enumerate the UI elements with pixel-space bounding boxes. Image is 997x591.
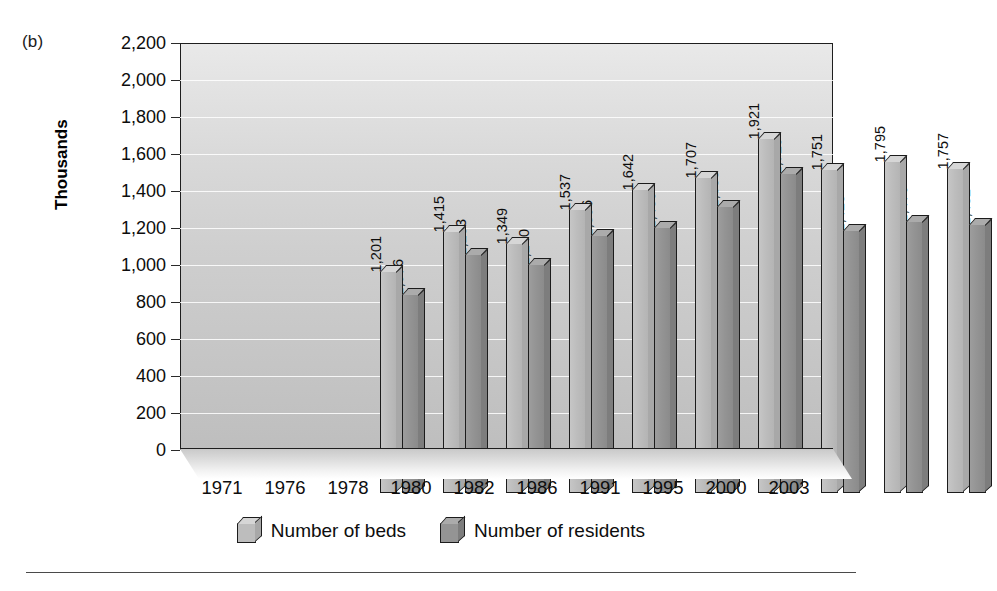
y-axis-tick-label: 2,000 bbox=[121, 71, 166, 89]
chart-legend: Number of bedsNumber of residents bbox=[0, 518, 882, 543]
legend-swatch-beds bbox=[237, 523, 256, 543]
panel-label: (b) bbox=[22, 32, 43, 52]
y-axis-tick-label: 600 bbox=[136, 330, 166, 348]
y-axis-tick-mark bbox=[171, 413, 180, 414]
y-axis-tick-mark bbox=[171, 450, 180, 451]
bar-side-face bbox=[796, 168, 803, 492]
bar-value-label: 1,751 bbox=[810, 134, 825, 171]
bar-value-label: 1,201 bbox=[369, 236, 384, 273]
y-axis-ticks: 2,2002,0001,8001,6001,4001,2001,00080060… bbox=[84, 43, 180, 450]
x-axis-label-2003: 2003 bbox=[768, 477, 809, 499]
legend-swatch-residents bbox=[440, 523, 459, 543]
legend-swatch-side-face bbox=[458, 516, 465, 542]
bars-layer: 1,2011,0761,4151,2931,3491,2401,5371,396… bbox=[360, 86, 997, 493]
y-axis-tick-mark bbox=[171, 228, 180, 229]
gridline bbox=[180, 80, 833, 81]
x-axis-labels: 1971197619781980198219861991199520002003 bbox=[180, 477, 852, 503]
x-axis-label-1982: 1982 bbox=[453, 477, 494, 499]
y-axis-tick-label: 200 bbox=[136, 404, 166, 422]
bar-beds-2000[interactable] bbox=[884, 161, 901, 493]
y-axis-tick-mark bbox=[171, 43, 180, 44]
y-axis-tick-mark bbox=[171, 339, 180, 340]
y-axis-tick-mark bbox=[171, 265, 180, 266]
bottom-divider bbox=[26, 572, 856, 573]
bar-value-label: 1,642 bbox=[621, 154, 636, 191]
y-axis-tick-label: 1,800 bbox=[121, 108, 166, 126]
x-axis-label-1991: 1991 bbox=[579, 477, 620, 499]
x-axis-label-1978: 1978 bbox=[327, 477, 368, 499]
plot-area: 1,2011,0761,4151,2931,3491,2401,5371,396… bbox=[180, 43, 833, 450]
y-axis-tick-mark bbox=[171, 117, 180, 118]
legend-entry-beds[interactable]: Number of beds bbox=[237, 518, 406, 543]
legend-label: Number of residents bbox=[474, 520, 645, 542]
y-axis-tick-label: 0 bbox=[156, 441, 166, 459]
y-axis-tick-mark bbox=[171, 154, 180, 155]
y-axis-tick-label: 400 bbox=[136, 367, 166, 385]
y-axis-title: Thousands bbox=[52, 182, 72, 210]
bar-value-label: 1,921 bbox=[747, 102, 762, 139]
y-axis-tick-label: 800 bbox=[136, 293, 166, 311]
bar-value-label: 1,349 bbox=[495, 208, 510, 245]
x-axis-label-2000: 2000 bbox=[705, 477, 746, 499]
x-axis-label-1986: 1986 bbox=[516, 477, 557, 499]
y-axis-tick-label: 1,400 bbox=[121, 182, 166, 200]
y-axis-tick-label: 1,600 bbox=[121, 145, 166, 163]
bar-side-face bbox=[922, 216, 929, 492]
y-axis-tick-label: 1,000 bbox=[121, 256, 166, 274]
bar-value-label: 1,795 bbox=[873, 126, 888, 163]
bar-beds-1991[interactable] bbox=[758, 138, 775, 493]
y-axis-tick-mark bbox=[171, 302, 180, 303]
bar-value-label: 1,757 bbox=[936, 133, 951, 170]
y-axis-tick-mark bbox=[171, 191, 180, 192]
x-axis-label-1976: 1976 bbox=[264, 477, 305, 499]
bar-value-label: 1,537 bbox=[558, 173, 573, 210]
y-axis-tick-label: 1,200 bbox=[121, 219, 166, 237]
legend-label: Number of beds bbox=[271, 520, 406, 542]
y-axis-tick-mark bbox=[171, 376, 180, 377]
bar-beds-1986[interactable] bbox=[695, 177, 712, 493]
bar-residents-2003[interactable] bbox=[969, 224, 986, 493]
x-axis-label-1971: 1971 bbox=[201, 477, 242, 499]
y-axis-tick-mark bbox=[171, 80, 180, 81]
x-axis-label-1995: 1995 bbox=[642, 477, 683, 499]
bar-beds-2003[interactable] bbox=[947, 168, 964, 493]
bar-value-label: 1,415 bbox=[432, 196, 447, 233]
bar-beds-1995[interactable] bbox=[821, 169, 838, 493]
legend-entry-residents[interactable]: Number of residents bbox=[440, 518, 645, 543]
x-axis-label-1980: 1980 bbox=[390, 477, 431, 499]
bar-value-label: 1,707 bbox=[684, 142, 699, 179]
legend-swatch-side-face bbox=[255, 516, 262, 542]
bar-residents-2000[interactable] bbox=[906, 221, 923, 493]
bar-side-face bbox=[985, 219, 992, 492]
bar-residents-1995[interactable] bbox=[843, 230, 860, 493]
y-axis-tick-label: 2,200 bbox=[121, 34, 166, 52]
bar-residents-1991[interactable] bbox=[780, 173, 797, 493]
bar-side-face bbox=[859, 224, 866, 492]
plot-floor-3d bbox=[180, 449, 852, 479]
